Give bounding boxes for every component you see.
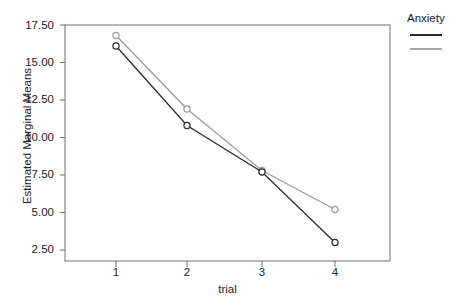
plot-area [0,0,453,304]
series-line-2 [116,36,335,210]
series-marker-1 [259,169,265,175]
series-marker-2 [184,106,190,112]
series-line-1 [116,46,335,243]
legend-swatch-series-1 [410,34,442,36]
legend-swatch-series-2 [410,48,442,50]
series-marker-1 [332,239,338,245]
legend-title: Anxiety [407,12,445,24]
series-marker-1 [113,43,119,49]
series-marker-2 [113,32,119,38]
chart-figure: Estimated Marginal Means trial 17.50 15.… [0,0,453,304]
series-marker-2 [332,206,338,212]
series-marker-1 [184,122,190,128]
